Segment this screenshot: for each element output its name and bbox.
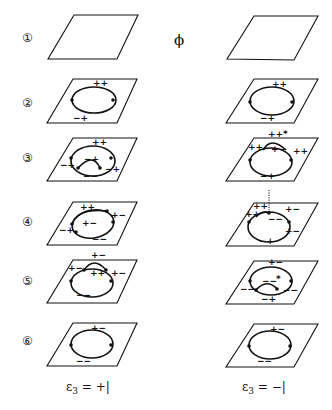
charge-label: ++: [272, 79, 287, 89]
charge-label: ++: [80, 202, 95, 212]
vertex-dot: [109, 343, 113, 347]
vertex-dot: [111, 98, 115, 102]
charge-label: +−: [91, 323, 106, 333]
charge-label: −+: [73, 113, 88, 123]
charge-label: −−: [76, 356, 91, 366]
vertex-dot: [248, 279, 252, 283]
charge-label: −+: [59, 225, 74, 235]
charge-label: +−: [82, 218, 97, 228]
epsilon-value: = +|: [78, 380, 110, 394]
charge-label: ++*: [268, 129, 288, 139]
charge-label: ++: [293, 146, 308, 156]
row-4: ④ ++ +− +− −+ −− ++ ++ +− −− +− −+: [22, 190, 318, 246]
loop-left-2: [72, 87, 116, 113]
vertex-dot: [69, 279, 73, 283]
charge-label: +−: [91, 250, 106, 260]
vertex-dot: [290, 100, 294, 104]
plane-right-1: [227, 16, 318, 60]
charge-label: −−: [262, 276, 277, 286]
charge-label: −+: [260, 113, 275, 123]
vertex-dot: [289, 158, 293, 162]
charge-label: +−: [111, 210, 126, 220]
caption-right: ε3 = −|: [242, 380, 286, 396]
feynman-loop-diagram: ① ϕ ② ++ −+ ++ −+ ③ ++ −+ −+ −+ −−: [0, 0, 332, 410]
charge-label: −−: [257, 356, 272, 366]
loop-right-6: [249, 331, 291, 359]
charge-label: −+: [60, 160, 75, 170]
charge-label: *: [276, 274, 281, 284]
charge-label: −−: [283, 285, 298, 295]
vertex-dot: [248, 100, 252, 104]
row-2: ② ++ −+ ++ −+: [22, 78, 318, 123]
vertex-dot: [70, 98, 74, 102]
row-number-3: ③: [22, 151, 33, 165]
vertex-dot: [74, 230, 78, 234]
vertex-dot: [275, 287, 279, 291]
epsilon-value: = −|: [254, 380, 286, 394]
vertex-dot: [98, 166, 102, 170]
caption-left: ε3 = +|: [66, 380, 110, 396]
vertex-dot: [69, 343, 73, 347]
charge-label: −−: [268, 214, 283, 224]
charge-label: −+: [84, 154, 99, 164]
charge-label: ++: [92, 137, 107, 147]
charge-label: +−: [268, 257, 283, 267]
charge-label: +−: [270, 324, 285, 334]
loop-left-6: [71, 330, 113, 358]
vertex-dot: [76, 166, 80, 170]
phi-symbol: ϕ: [174, 31, 184, 49]
vertex-dot: [289, 279, 293, 283]
plane-left-2: [47, 79, 137, 123]
charge-label: −−: [92, 234, 107, 244]
charge-label: +−: [285, 226, 300, 236]
plane-left-1: [48, 15, 138, 59]
charge-label: −+: [259, 236, 274, 246]
charge-label: +−: [111, 268, 126, 278]
row-number-5: ⑤: [22, 274, 33, 288]
vertex-dot: [248, 158, 252, 162]
charge-label: ++: [93, 78, 108, 88]
charge-label: ++: [90, 268, 105, 278]
charge-label: −+: [105, 164, 120, 174]
row-number-6: ⑥: [22, 334, 33, 348]
row-1: ① ϕ: [22, 15, 318, 60]
charge-label: +−: [285, 204, 300, 214]
vertex-dot: [105, 209, 109, 213]
row-3: ③ ++ −+ −+ −+ −− ++* ++ +− ++ −+: [22, 129, 318, 181]
vertex-dot: [109, 156, 113, 160]
charge-label: −+: [261, 294, 276, 304]
charge-label: −−: [76, 290, 91, 300]
row-5: ⑤ +− +− ++ +− −− +− −− * −− −− −+: [22, 250, 318, 304]
vertex-dot: [288, 344, 292, 348]
vertex-dot: [247, 344, 251, 348]
svg-text:ε3 = +|: ε3 = +|: [66, 380, 110, 396]
row-number-1: ①: [22, 31, 33, 45]
row-6: ⑥ +− −− +− −−: [22, 323, 318, 367]
vertex-dot: [287, 220, 291, 224]
charge-label: −+: [260, 171, 275, 181]
charge-label: ++: [248, 142, 263, 152]
charge-label: ++: [245, 209, 260, 219]
charge-label: +−: [271, 144, 286, 154]
vertex-dot: [111, 220, 115, 224]
svg-text:ε3 = −|: ε3 = −|: [242, 380, 286, 396]
loop-right-2: [250, 87, 294, 115]
charge-label: −−: [83, 171, 98, 181]
vertex-dot: [109, 279, 113, 283]
charge-label: −−: [240, 284, 255, 294]
row-number-2: ②: [22, 96, 33, 110]
charge-label: +−: [68, 263, 83, 273]
vertex-dot: [247, 220, 251, 224]
row-number-4: ④: [22, 215, 33, 229]
